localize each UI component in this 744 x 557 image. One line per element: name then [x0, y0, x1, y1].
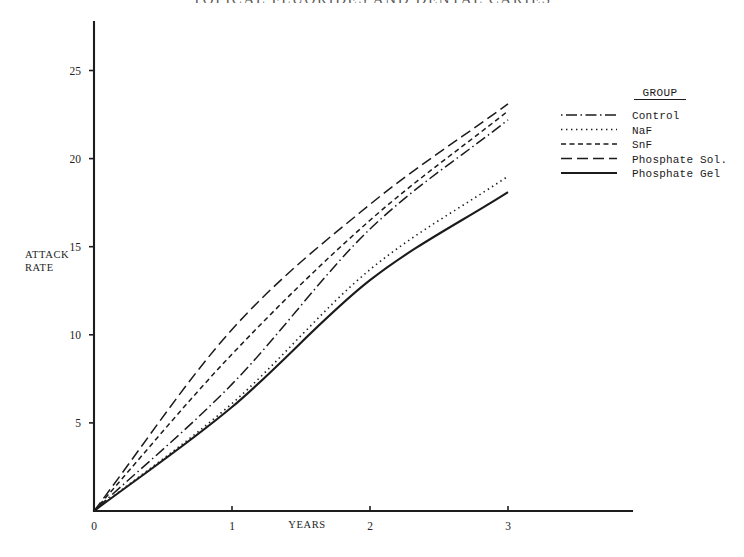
series-line-phosphate-gel [94, 192, 508, 511]
legend: GROUP ControlNaFSnFPhosphate Sol.Phospha… [561, 87, 727, 180]
legend-entries: ControlNaFSnFPhosphate Sol.Phosphate Gel [561, 110, 727, 180]
legend-title: GROUP [642, 87, 677, 99]
legend-label-naf: NaF [632, 125, 652, 137]
line-chart-plot: 510152025 0123 ATTACK RATE YEARS GROUP C… [0, 0, 744, 557]
x-axis-label: YEARS [288, 519, 325, 530]
y-tick-label: 10 [70, 329, 82, 341]
series-line-control [94, 120, 508, 511]
series-group [94, 104, 508, 511]
legend-label-snf: SnF [632, 139, 652, 151]
y-tick-label: 25 [70, 65, 82, 77]
y-axis-ticks: 510152025 [70, 65, 96, 429]
y-axis-label-line1: ATTACK [25, 249, 69, 260]
x-tick-label: 3 [505, 520, 511, 532]
y-tick-label: 5 [75, 417, 81, 429]
y-tick-label: 15 [70, 241, 82, 253]
legend-label-phosphate-gel: Phosphate Gel [632, 168, 720, 180]
y-axis-label-line2: RATE [25, 262, 54, 273]
series-line-snf [94, 111, 508, 511]
axes-group [94, 22, 632, 511]
x-tick-label: 1 [229, 520, 235, 532]
x-tick-label: 0 [91, 520, 97, 532]
legend-label-phosphate-sol: Phosphate Sol. [632, 154, 727, 166]
legend-label-control: Control [632, 110, 680, 122]
y-tick-label: 20 [70, 153, 82, 165]
x-tick-label: 2 [367, 520, 373, 532]
figure-container: TOPICAL FLUORIDES AND DENTAL CARIES 5101… [0, 0, 744, 557]
series-line-phosphate-sol [94, 104, 508, 511]
